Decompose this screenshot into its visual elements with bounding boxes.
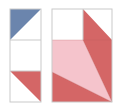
left-column bbox=[10, 9, 41, 102]
puzzle-diagram bbox=[0, 0, 115, 110]
right-panel bbox=[52, 9, 112, 102]
left-cell-2 bbox=[10, 40, 41, 71]
